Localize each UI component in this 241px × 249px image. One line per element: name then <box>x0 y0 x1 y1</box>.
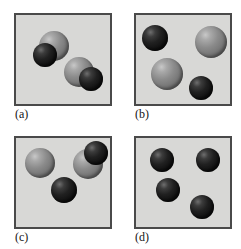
atom-b3-light <box>151 58 183 90</box>
panel-c <box>14 136 112 229</box>
atom-c3-dark <box>51 177 77 203</box>
panel-a <box>14 13 112 106</box>
atom-d4-dark <box>190 195 214 219</box>
panel-label-a: (a) <box>15 108 28 120</box>
panel-b <box>134 13 232 106</box>
atom-b2-light <box>195 26 227 58</box>
atom-b1-dark <box>142 25 168 51</box>
atom-d3-dark <box>156 178 180 202</box>
atom-a1-dark <box>33 43 57 67</box>
atom-c2-dark <box>84 141 108 165</box>
atom-d2-dark <box>196 148 220 172</box>
atom-a2-dark <box>79 67 103 91</box>
panel-d <box>134 136 232 229</box>
molecular-model-figure: (a)(b)(c)(d) <box>0 0 241 249</box>
atom-b4-dark <box>189 76 213 100</box>
atom-d1-dark <box>150 148 174 172</box>
panel-label-c: (c) <box>15 231 28 243</box>
panel-label-d: (d) <box>135 231 149 243</box>
panel-label-b: (b) <box>135 108 149 120</box>
atom-c1-light <box>25 148 55 178</box>
